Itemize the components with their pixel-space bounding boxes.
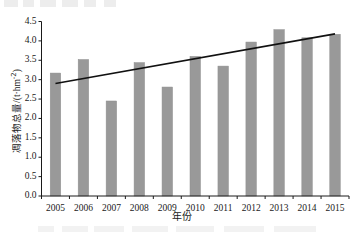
bar-2011 — [218, 66, 229, 196]
bar-2009 — [162, 87, 173, 196]
bar-2005 — [50, 73, 61, 196]
plot-area — [0, 0, 364, 233]
bar-2008 — [134, 63, 145, 196]
bar-2007 — [106, 101, 117, 196]
chart-figure: 凋落物总量/(t·hm-2) 年份 0.00.51.01.52.02.53.03… — [0, 0, 364, 233]
bar-2010 — [190, 56, 201, 196]
bar-2014 — [302, 38, 313, 196]
bar-2013 — [274, 30, 285, 196]
bar-2012 — [246, 42, 257, 196]
bar-2015 — [330, 34, 341, 196]
bars-group — [50, 30, 340, 196]
